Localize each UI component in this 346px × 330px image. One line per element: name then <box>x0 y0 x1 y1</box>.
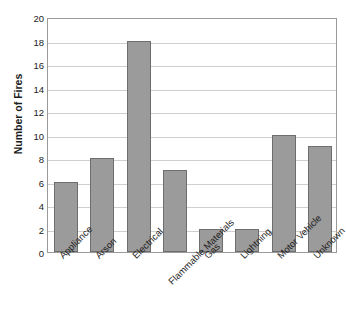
y-axis-tick-label: 14 <box>4 83 44 94</box>
bar[interactable] <box>127 41 151 253</box>
chart-title: Causes of Fires in Boomtown <box>0 0 346 2</box>
y-axis-tick-label: 6 <box>4 177 44 188</box>
y-axis-tick-label: 2 <box>4 224 44 235</box>
bar-slot <box>193 19 229 252</box>
x-axis-tick-labels: ApplianceArsonElectricalFlammable Materi… <box>47 253 337 330</box>
bar-slot <box>157 19 193 252</box>
y-axis-tick-label: 18 <box>4 36 44 47</box>
y-axis-tick-label: 0 <box>4 248 44 259</box>
y-axis-tick-labels: 20181614121086420 <box>0 18 44 253</box>
y-axis-tick-label: 8 <box>4 154 44 165</box>
y-axis-tick-label: 12 <box>4 107 44 118</box>
bar-slot <box>121 19 157 252</box>
y-axis-tick-label: 10 <box>4 130 44 141</box>
bar-slot <box>48 19 84 252</box>
bar-slot <box>266 19 302 252</box>
bar-chart: Causes of Fires in Boomtown Number of Fi… <box>0 0 346 330</box>
bar-slot <box>229 19 265 252</box>
y-axis-tick-label: 20 <box>4 13 44 24</box>
bar[interactable] <box>163 170 187 252</box>
bar-slot <box>84 19 120 252</box>
y-axis-tick-label: 4 <box>4 201 44 212</box>
y-axis-tick-label: 16 <box>4 60 44 71</box>
plot-area <box>47 18 337 253</box>
